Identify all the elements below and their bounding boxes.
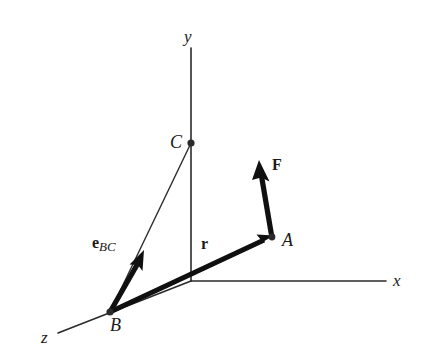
vector-label-r: r <box>201 236 208 252</box>
point-label-a: A <box>282 231 293 249</box>
vector-label-ebc-subscript: BC <box>99 239 116 254</box>
vector-label-f: F <box>272 157 282 173</box>
axis-label-x: x <box>393 272 401 289</box>
point-a-dot <box>269 234 276 241</box>
axis-label-z: z <box>41 329 48 346</box>
diagram-background <box>0 0 423 362</box>
vector-label-ebc: eBC <box>92 235 116 251</box>
point-c-dot <box>187 139 194 146</box>
point-label-b: B <box>110 316 121 334</box>
vector-diagram-canvas <box>0 0 423 362</box>
point-label-c: C <box>170 133 182 151</box>
axis-label-y: y <box>184 28 192 45</box>
